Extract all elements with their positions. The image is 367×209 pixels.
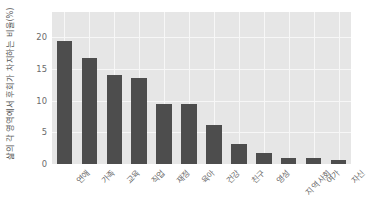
x-axis-tick-labels: 연애가족교육직업재정육아건강친구영성지역사회여가자신: [52, 164, 351, 209]
bar: [181, 104, 196, 164]
y-tick-label: 0: [42, 159, 47, 169]
y-tick-label: 15: [36, 64, 47, 74]
bar: [107, 75, 122, 164]
bar: [57, 41, 72, 165]
bar: [206, 125, 221, 164]
bar: [156, 104, 171, 164]
y-tick-label: 10: [36, 96, 47, 106]
x-tick-label: 연애: [73, 166, 93, 186]
y-axis-label: 삶의 각 영역에서 후회가 차지하는 비율(%): [0, 0, 18, 168]
x-tick-label: 건강: [223, 166, 243, 186]
y-axis-tick-labels: 05101520: [20, 12, 50, 164]
x-tick-label: 교육: [123, 166, 143, 186]
bar: [82, 58, 97, 164]
bar: [131, 78, 146, 164]
x-tick-label: 직업: [148, 166, 168, 186]
x-tick-label: 재정: [173, 166, 193, 186]
y-tick-label: 5: [42, 127, 47, 137]
y-axis-label-text: 삶의 각 영역에서 후회가 차지하는 비율(%): [3, 8, 15, 161]
plot-area: [52, 12, 351, 164]
x-tick-label: 자신: [347, 166, 367, 186]
x-tick-label: 영성: [272, 166, 292, 186]
bar-series: [52, 12, 351, 164]
x-tick-label: 친구: [248, 166, 268, 186]
bar: [256, 153, 271, 164]
y-tick-label: 20: [36, 32, 47, 42]
x-tick-label: 가족: [98, 166, 118, 186]
bar: [231, 144, 246, 164]
x-tick-label: 육아: [198, 166, 218, 186]
